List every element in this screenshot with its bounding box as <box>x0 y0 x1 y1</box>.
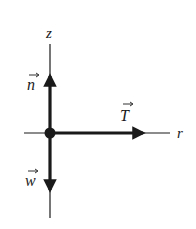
z-axis-label: z <box>45 25 52 41</box>
vector-T-label: T <box>120 107 130 124</box>
vector-w-label-group: w <box>25 169 38 189</box>
vector-n-label-group: n <box>27 73 39 93</box>
free-body-diagram: z r n w T <box>0 0 196 229</box>
particle-dot <box>45 128 56 139</box>
vector-T-overarrow-icon <box>123 102 133 106</box>
r-axis-label: r <box>177 125 183 141</box>
vector-n-label: n <box>27 76 35 93</box>
vector-w-label: w <box>25 172 36 189</box>
vector-T-label-group: T <box>120 102 133 124</box>
